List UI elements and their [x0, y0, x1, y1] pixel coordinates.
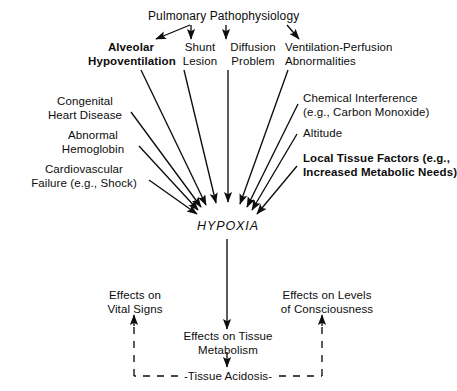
node-local-tissue-factors: Local Tissue Factors (e.g., Increased Me… — [303, 152, 457, 179]
hypoxia-pathophysiology-diagram: Pulmonary Pathophysiology Alveolar Hypov… — [0, 0, 457, 391]
node-hypoxia: HYPOXIA — [186, 220, 270, 234]
node-abnormal-hemoglobin: Abnormal Hemoglobin — [50, 129, 136, 156]
node-tissue-acidosis: -Tissue Acidosis- — [177, 370, 279, 384]
arrow-title-to-alveolar — [156, 25, 190, 39]
node-chemical-interference: Chemical Interference (e.g., Carbon Mono… — [303, 92, 455, 119]
node-ventilation-perfusion-abnormalities: Ventilation-Perfusion Abnormalities — [285, 41, 403, 68]
arrow-altitude-to-hypoxia — [252, 134, 297, 210]
node-diffusion-problem: Diffusion Problem — [224, 41, 282, 68]
arrow-cardio-to-hypoxia — [149, 180, 197, 214]
arrow-shunt-to-hypoxia — [184, 70, 216, 203]
arrow-title-to-ventilation — [287, 25, 299, 39]
node-cardiovascular-failure: Cardiovascular Failure (e.g., Shock) — [22, 163, 146, 190]
node-altitude: Altitude — [303, 127, 403, 141]
node-effects-on-vital-signs: Effects on Vital Signs — [97, 289, 173, 316]
node-shunt-lesion: Shunt Lesion — [178, 41, 222, 68]
arrow-alveolar-to-hypoxia — [141, 70, 206, 205]
diagram-title: Pulmonary Pathophysiology — [148, 10, 299, 24]
node-alveolar-hypoventilation: Alveolar Hypoventilation — [88, 41, 174, 68]
node-effects-on-tissue-metabolism: Effects on Tissue Metabolism — [176, 330, 280, 357]
arrow-ventilation-to-hypoxia — [240, 70, 288, 204]
node-effects-on-levels-of-consciousness: Effects on Levels of Consciousness — [272, 289, 382, 316]
arrow-chemical-to-hypoxia — [247, 104, 298, 207]
arrow-abnormal-to-hypoxia — [139, 146, 198, 210]
node-congenital-heart-disease: Congenital Heart Disease — [42, 95, 128, 122]
